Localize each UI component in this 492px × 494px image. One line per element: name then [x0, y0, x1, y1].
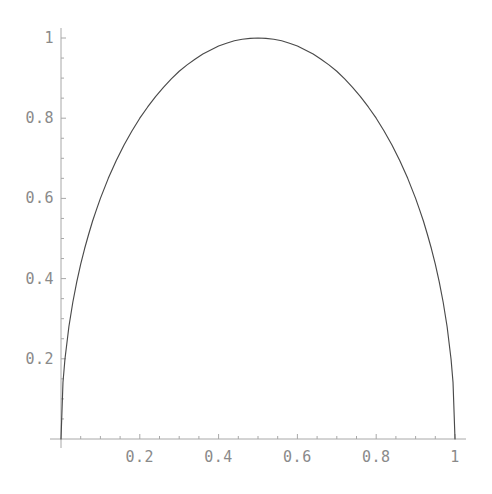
x-axis-tick-label: 1: [415, 450, 492, 465]
x-axis-tick-label: 0.6: [257, 450, 337, 465]
x-axis-tick-label: 0.4: [179, 450, 259, 465]
y-axis-tick-label: 0.6: [25, 191, 54, 206]
y-axis-tick-label: 1: [44, 31, 54, 46]
y-axis-major-ticks: [61, 38, 66, 359]
x-axis-group: [50, 434, 466, 439]
data-curve: [61, 38, 455, 439]
y-axis-tick-label: 0.8: [25, 111, 54, 126]
plot-canvas: 0.20.40.60.81 0.20.40.60.81: [0, 0, 492, 494]
x-axis-major-ticks: [140, 434, 455, 439]
x-axis-tick-label: 0.2: [100, 450, 180, 465]
chart-svg: [0, 0, 492, 494]
y-axis-tick-label: 0.4: [25, 272, 54, 287]
x-axis-tick-label: 0.8: [336, 450, 416, 465]
y-axis-tick-label: 0.2: [25, 352, 54, 367]
y-axis-group: [61, 28, 66, 448]
